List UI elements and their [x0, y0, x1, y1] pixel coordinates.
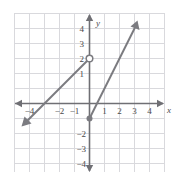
x-axis-label: x: [166, 105, 171, 115]
graph-canvas: −4 −2 −1 1 2 3 4 4 3 2 1 −2 −3 −4 x y: [0, 0, 178, 184]
y-tick-label: 1: [80, 69, 85, 79]
y-tick-label: 3: [80, 39, 85, 49]
x-tick-label: 4: [147, 106, 152, 116]
x-tick-label: 3: [132, 106, 137, 116]
y-tick-label: −4: [76, 159, 86, 169]
x-tick-label: −2: [55, 106, 65, 116]
x-tick-label: −1: [70, 106, 80, 116]
y-tick-label: −2: [76, 129, 86, 139]
x-tick-label: 1: [102, 106, 107, 116]
y-tick-label: 4: [80, 24, 85, 34]
y-tick-label: 2: [80, 54, 85, 64]
x-tick-label: 2: [117, 106, 122, 116]
open-circle-endpoint: [86, 55, 93, 62]
y-tick-label: −3: [76, 144, 86, 154]
y-axis-label: y: [95, 18, 100, 28]
coordinate-plane-graph: −4 −2 −1 1 2 3 4 4 3 2 1 −2 −3 −4 x y: [0, 0, 178, 184]
filled-dot-endpoint: [87, 116, 93, 122]
